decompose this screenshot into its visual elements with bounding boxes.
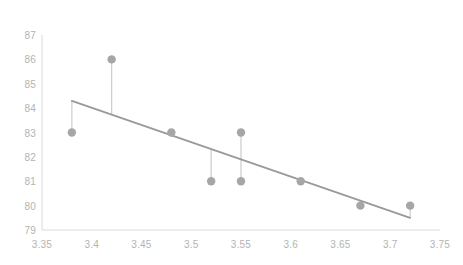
y-tick-label: 83 [14, 127, 36, 138]
y-tick-label: 85 [14, 78, 36, 89]
data-point [406, 201, 414, 209]
x-tick-label: 3.35 [32, 239, 52, 250]
plot-canvas [0, 0, 463, 265]
y-tick-label: 87 [14, 30, 36, 41]
data-point-series [68, 55, 415, 210]
data-point [68, 128, 76, 136]
data-point [237, 177, 245, 185]
y-tick-label: 86 [14, 54, 36, 65]
trendline-segment [72, 101, 410, 218]
data-point [167, 128, 175, 136]
y-tick-label: 82 [14, 151, 36, 162]
linear-trendline [72, 101, 410, 218]
data-point [107, 55, 115, 63]
x-tick-label: 3.5 [184, 239, 199, 250]
data-point [237, 128, 245, 136]
x-tick-label: 3.65 [330, 239, 350, 250]
x-tick-label: 3.4 [84, 239, 99, 250]
x-tick-label: 3.6 [283, 239, 298, 250]
y-tick-label: 80 [14, 200, 36, 211]
data-point [207, 177, 215, 185]
x-tick-label: 3.55 [231, 239, 251, 250]
x-tick-label: 3.7 [383, 239, 398, 250]
data-point [297, 177, 305, 185]
x-tick-label: 3.45 [131, 239, 151, 250]
residual-drop-lines [72, 59, 410, 217]
y-tick-label: 81 [14, 176, 36, 187]
y-tick-label: 79 [14, 225, 36, 236]
y-tick-label: 84 [14, 103, 36, 114]
data-point [356, 201, 364, 209]
x-tick-label: 3.75 [430, 239, 450, 250]
scatter-chart: 878685848382818079 3.353.43.453.53.553.6… [0, 0, 463, 265]
